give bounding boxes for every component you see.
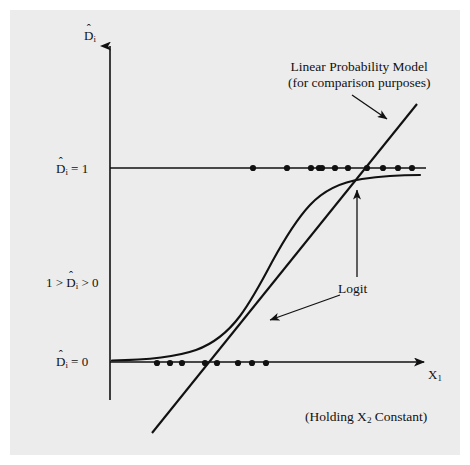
y-tick-label-d-between: 1 > ̂Di > 0	[46, 275, 99, 291]
data-point	[345, 165, 351, 171]
data-point	[249, 360, 255, 366]
scatter-group-d-equals-0	[154, 360, 269, 366]
data-point	[319, 165, 325, 171]
data-point	[167, 360, 173, 366]
annotation-logit: Logit	[338, 281, 367, 297]
data-point	[250, 165, 256, 171]
data-point	[263, 360, 269, 366]
y-tick-label-d-equals-1: ̂Di = 1	[56, 161, 88, 177]
annotation-lpm-line2: (for comparison purposes)	[288, 75, 430, 91]
logit-curve	[112, 175, 420, 361]
data-point	[179, 360, 185, 366]
x-axis-label: X1	[428, 367, 442, 383]
note-holding-x2-constant: (Holding X2 Constant)	[305, 409, 427, 426]
logit-annotation-arrow-diagonal	[270, 295, 340, 320]
lpm-annotation-arrow	[352, 95, 387, 119]
linear-probability-model-line	[152, 104, 417, 433]
data-point	[364, 165, 370, 171]
annotation-lpm-line1: Linear Probability Model	[288, 59, 430, 75]
data-point	[380, 165, 386, 171]
annotation-linear-probability-model: Linear Probability Model (for comparison…	[288, 59, 430, 91]
data-point	[332, 165, 338, 171]
figure-root: ̂Di X1 ̂Di = 1 1 > ̂Di > 0 ̂Di = 0 Linea…	[0, 0, 470, 465]
data-point	[409, 165, 415, 171]
data-point	[235, 360, 241, 366]
data-point	[214, 360, 220, 366]
data-point	[202, 360, 208, 366]
y-axis-label: ̂Di	[84, 28, 96, 44]
data-point	[395, 165, 401, 171]
y-tick-label-d-equals-0: ̂Di = 0	[56, 354, 88, 370]
data-point	[284, 165, 290, 171]
data-point	[308, 165, 314, 171]
data-point	[154, 360, 160, 366]
